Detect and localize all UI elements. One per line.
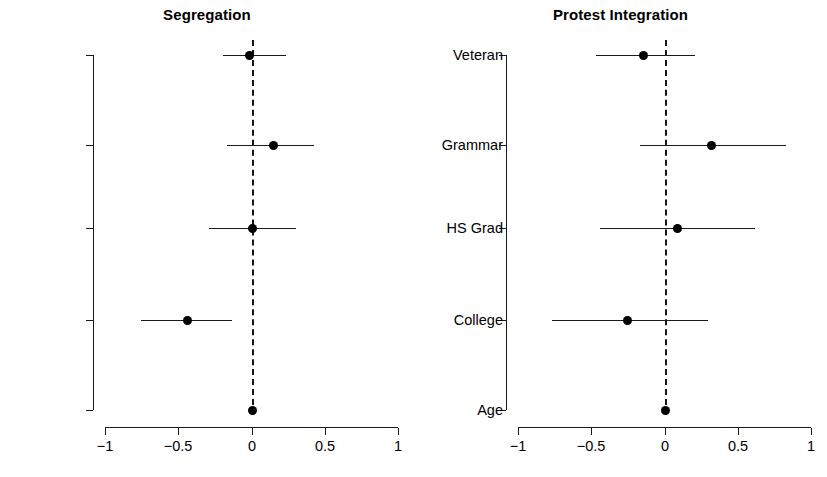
point-estimate-hs-grad-protest <box>673 224 682 233</box>
point-estimate-grammar <box>269 141 278 150</box>
x-axis-label-1: 1 <box>394 438 402 454</box>
x-tick-neg1 <box>105 428 106 435</box>
x-axis-label-0-protest: 0 <box>661 438 669 454</box>
y-tick-college <box>86 320 93 321</box>
y-axis-spine-segregation <box>93 55 94 410</box>
y-tick-hs-grad <box>86 228 93 229</box>
x-tick-05 <box>325 428 326 435</box>
y-axis-label-college-protest: College <box>423 312 503 328</box>
x-axis-label-0: 0 <box>248 438 256 454</box>
x-axis-segregation: −1 −0.5 0 0.5 1 <box>105 427 398 428</box>
x-tick-0-protest <box>665 428 666 435</box>
coefficient-plot-figure: Segregation Veteran Grammar HS Grad Coll… <box>0 0 827 477</box>
x-axis-protest-integration: −1 −0.5 0 0.5 1 <box>518 427 811 428</box>
y-tick-age <box>86 410 93 411</box>
x-axis-label-neg05: −0.5 <box>164 438 193 454</box>
x-axis-label-1-protest: 1 <box>807 438 815 454</box>
point-estimate-age-protest <box>661 406 670 415</box>
point-estimate-age <box>248 406 257 415</box>
y-axis-label-age-protest: Age <box>423 402 503 418</box>
point-estimate-hs-grad <box>248 224 257 233</box>
y-axis-label-grammar-protest: Grammar <box>423 137 503 153</box>
x-tick-1-protest <box>811 428 812 435</box>
point-estimate-grammar-protest <box>707 141 716 150</box>
panel-segregation: Segregation Veteran Grammar HS Grad Coll… <box>0 0 414 477</box>
x-axis-label-05-protest: 0.5 <box>728 438 748 454</box>
point-estimate-veteran-protest <box>639 51 648 60</box>
x-axis-label-neg1-protest: −1 <box>510 438 527 454</box>
panel-title-segregation: Segregation <box>0 6 414 23</box>
x-tick-05-protest <box>738 428 739 435</box>
panel-protest-integration: Protest Integration Veteran Grammar HS G… <box>414 0 827 477</box>
point-estimate-veteran <box>245 51 254 60</box>
x-tick-neg1-protest <box>518 428 519 435</box>
confidence-interval-veteran <box>223 55 286 56</box>
y-tick-veteran <box>86 55 93 56</box>
point-estimate-college <box>183 316 192 325</box>
point-estimate-college-protest <box>623 316 632 325</box>
x-tick-1 <box>398 428 399 435</box>
x-axis-label-neg1: −1 <box>97 438 114 454</box>
y-axis-spine-protest-integration <box>506 55 507 410</box>
x-axis-label-neg05-protest: −0.5 <box>577 438 606 454</box>
x-axis-label-05: 0.5 <box>315 438 335 454</box>
y-axis-label-hs-grad-protest: HS Grad <box>423 220 503 236</box>
panel-title-protest-integration: Protest Integration <box>414 6 827 23</box>
x-tick-0 <box>252 428 253 435</box>
y-tick-grammar <box>86 145 93 146</box>
x-tick-neg05-protest <box>591 428 592 435</box>
y-axis-label-veteran-protest: Veteran <box>423 47 503 63</box>
x-tick-neg05 <box>178 428 179 435</box>
